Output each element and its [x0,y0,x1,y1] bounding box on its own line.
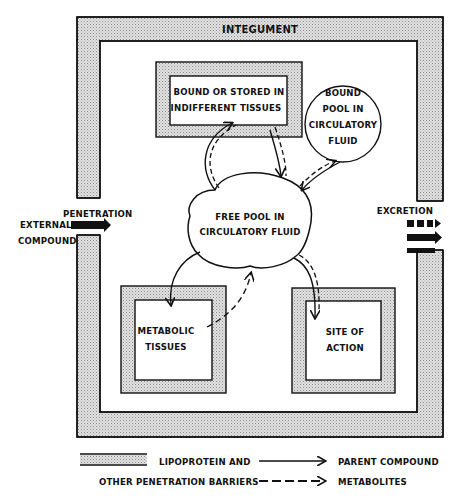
free-pool-label-1: FREE POOL IN [215,212,284,222]
integument-title: INTEGUMENT [222,24,298,35]
legend-barrier-label-1: LIPOPROTEIN AND [159,457,251,467]
pharmacokinetics-diagram: INTEGUMENT BOUND OR STORED IN INDIFFEREN… [0,0,461,499]
metabolic-label-2: TISSUES [145,342,187,352]
legend-metabolites-label: METABOLITES [338,477,407,487]
penetration-label: PENETRATION [63,209,132,219]
penetration-arrow-icon [71,218,111,232]
compound-label: COMPOUND [18,236,77,246]
free-pool-label-2: CIRCULATORY FLUID [199,227,300,237]
bound-stored-label-2: INDIFFERENT TISSUES [171,103,282,113]
bound-pool-label-1: BOUND [325,88,361,98]
legend: LIPOPROTEIN AND OTHER PENETRATION BARRIE… [80,454,439,487]
bound-pool-label-2: POOL IN [322,104,363,114]
excretion-arrows-icon [407,219,442,253]
bound-pool-label-4: FLUID [328,136,357,146]
site-action-label-2: ACTION [326,343,364,353]
bound-pool-label-3: CIRCULATORY [309,120,378,130]
external-label: EXTERNAL [20,220,72,230]
barrier-swatch [80,454,147,465]
metabolic-label-1: METABOLIC [138,326,195,336]
bound-pool-exchange-arrows [300,161,340,190]
excretion-label: EXCRETION [377,206,433,216]
metabolic-tissues-node [121,286,226,393]
bound-stored-node [156,62,302,137]
bound-stored-label-1: BOUND OR STORED IN [173,87,284,97]
site-action-label-1: SITE OF [326,327,365,337]
legend-barrier-label-2: OTHER PENETRATION BARRIERS [99,477,259,487]
legend-parent-label: PARENT COMPOUND [338,457,439,467]
site-of-action-node [292,288,395,393]
